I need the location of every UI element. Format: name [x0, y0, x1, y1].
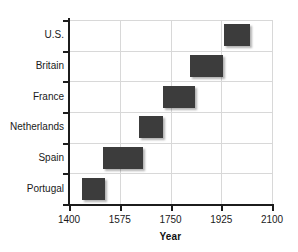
- x-tick-label-1750: 1750: [148, 214, 194, 226]
- x-axis-tick: [69, 204, 71, 211]
- y-axis-tick: [63, 173, 70, 175]
- x-axis-title: Year: [69, 231, 272, 242]
- gridline-vertical: [272, 20, 273, 204]
- gridline-horizontal: [69, 112, 272, 113]
- y-tick-label-netherlands: Netherlands: [2, 121, 64, 132]
- x-tick-label-2100: 2100: [249, 214, 295, 226]
- y-axis-tick: [63, 143, 70, 145]
- y-axis-tick: [63, 112, 70, 114]
- y-axis-tick: [63, 51, 70, 53]
- x-tick-label-1400: 1400: [46, 214, 92, 226]
- bar-us: [224, 24, 250, 46]
- gridline-horizontal: [69, 143, 272, 144]
- x-axis-tick: [221, 204, 223, 211]
- bar-spain: [103, 147, 143, 169]
- gridline-horizontal: [69, 51, 272, 52]
- gridline-horizontal: [69, 81, 272, 82]
- bar-britain: [190, 55, 223, 77]
- chart-container: PortugalSpainNetherlandsFranceBritainU.S…: [0, 0, 298, 252]
- x-tick-label-1925: 1925: [198, 214, 244, 226]
- bar-france: [163, 86, 195, 108]
- y-tick-label-britain: Britain: [2, 60, 64, 71]
- bar-netherlands: [139, 116, 163, 138]
- gridline-horizontal: [69, 20, 272, 21]
- x-axis-tick: [171, 204, 173, 211]
- plot-area: [69, 20, 272, 204]
- x-axis-tick: [272, 204, 274, 211]
- y-tick-label-portugal: Portugal: [2, 183, 64, 194]
- y-tick-label-france: France: [2, 91, 64, 102]
- y-axis-tick: [63, 81, 70, 83]
- x-axis-tick: [120, 204, 122, 211]
- x-tick-label-1575: 1575: [97, 214, 143, 226]
- y-tick-label-spain: Spain: [2, 152, 64, 163]
- y-axis-tick: [63, 20, 70, 22]
- y-tick-label-us: U.S.: [2, 29, 64, 40]
- gridline-horizontal: [69, 173, 272, 174]
- bar-portugal: [82, 178, 105, 200]
